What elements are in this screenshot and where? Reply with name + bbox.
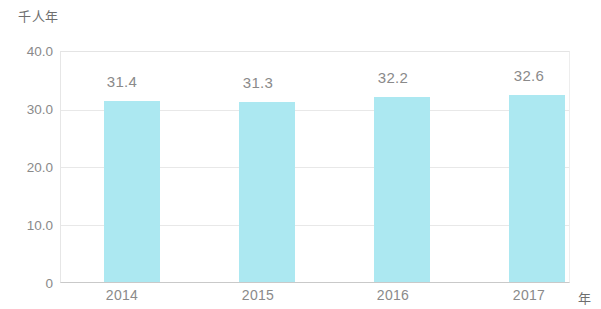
y-axis-tick-0: 0 [5, 276, 53, 291]
bar-2015 [239, 102, 295, 282]
y-axis-tick-30: 30.0 [5, 102, 53, 117]
value-label-2017: 32.6 [499, 67, 559, 84]
y-axis-tick-20: 20.0 [5, 160, 53, 175]
x-axis-tick-2016: 2016 [363, 287, 423, 303]
x-axis-tick-2017: 2017 [499, 287, 559, 303]
value-label-2015: 31.3 [228, 74, 288, 91]
bar-2016 [374, 97, 430, 282]
y-axis-tick-10: 10.0 [5, 218, 53, 233]
y-axis-tick-labels: 40.0 30.0 20.0 10.0 0 [0, 51, 53, 283]
y-axis-tick-40: 40.0 [5, 44, 53, 59]
bar-2017 [509, 95, 565, 282]
x-axis-unit-label: 年 [578, 288, 591, 307]
bar-2014 [104, 101, 160, 282]
bar-chart: 千人年 40.0 30.0 20.0 10.0 0 31.4 31.3 32.2… [0, 0, 601, 309]
x-axis-tick-2015: 2015 [228, 287, 288, 303]
value-label-2014: 31.4 [92, 73, 152, 90]
x-axis-tick-2014: 2014 [92, 287, 152, 303]
value-label-2016: 32.2 [363, 69, 423, 86]
y-axis-unit-label: 千人年 [18, 6, 59, 25]
